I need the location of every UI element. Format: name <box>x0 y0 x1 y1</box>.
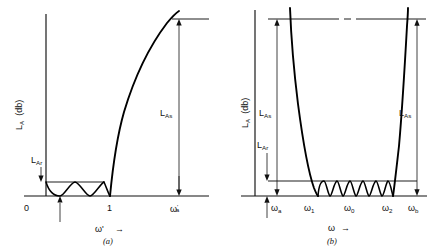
panel-b-xtick-w1: ω1 <box>304 203 315 214</box>
panel-b-y-axis-label: LA (db) <box>240 98 251 128</box>
panel-a-lowpass: LA (db) LAs LAr <box>0 0 216 246</box>
panel-a-lar-label: LAr <box>31 155 42 166</box>
panel-b-right-skirt-curve <box>393 8 408 196</box>
panel-a-y-axis-label: LA (db) <box>14 100 25 130</box>
panel-a-x-axis-arrow: → <box>115 224 124 234</box>
panel-a-caption: (a) <box>103 236 113 246</box>
panel-b-xtick-w2: ω2 <box>382 203 393 214</box>
panel-b-left-skirt-curve <box>290 8 318 196</box>
panel-b-las-right-label: LAs <box>399 108 411 119</box>
panel-a-las-label: LAs <box>160 108 172 119</box>
panel-a-stopband-curve <box>110 11 179 196</box>
panel-b-las-left-arrow-down <box>274 189 279 196</box>
panel-b-x-axis-arrow: → <box>341 223 350 233</box>
panel-b-caption: (b) <box>327 236 337 246</box>
panel-a-xtick-wa: ω'a <box>170 203 180 214</box>
panel-b-xtick-wa: ωa <box>271 203 282 214</box>
panel-b-plot: LA (db) LAs <box>215 0 431 246</box>
panel-b-passband-ripple <box>318 181 393 196</box>
panel-a-lar-arrow-head <box>38 176 43 183</box>
figure-root: LA (db) LAs LAr <box>0 0 431 246</box>
panel-a-ripple-pointer-head <box>57 196 62 203</box>
panel-b-xtick-w0: ω0 <box>344 203 355 214</box>
panel-b-las-right-arrow-up <box>414 19 419 26</box>
panel-a-passband-ripple <box>46 182 104 196</box>
svg-text:LA (db): LA (db) <box>240 98 251 128</box>
panel-a-xtick-1: 1 <box>107 203 112 213</box>
panel-b-lar-arrow-down <box>264 175 269 182</box>
panel-b-lar-label: LAr <box>257 140 268 151</box>
panel-b-baseline-pointer-head <box>264 196 269 203</box>
panel-a-plot: LA (db) LAs LAr <box>0 0 216 246</box>
panel-b-xtick-wb: ωb <box>408 203 419 214</box>
panel-b-las-left-label: LAs <box>259 108 271 119</box>
panel-a-xtick-0: 0 <box>24 203 29 213</box>
panel-b-bandpass: LA (db) LAs <box>215 0 431 246</box>
panel-b-las-left-arrow-up <box>274 19 279 26</box>
panel-a-passband-edge <box>104 182 110 196</box>
panel-b-x-axis-label: ω <box>328 223 335 233</box>
panel-a-las-arrow-up <box>176 19 181 26</box>
panel-b-las-right-arrow-down <box>414 189 419 196</box>
panel-a-x-axis-label: ω' <box>95 224 104 234</box>
svg-text:LA (db): LA (db) <box>14 100 25 130</box>
